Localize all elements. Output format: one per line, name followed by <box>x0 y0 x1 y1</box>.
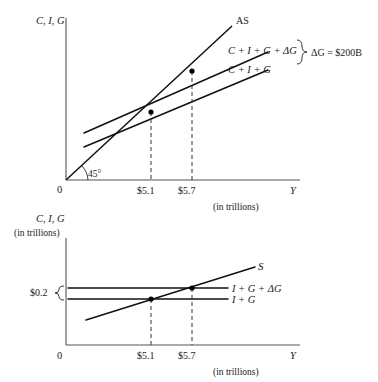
bottom-equilibrium-dot-57 <box>189 285 194 290</box>
investment-shifted-label: I + G + ΔG <box>231 283 282 294</box>
top-x-tick-51: $5.1 <box>137 185 155 196</box>
expenditure-base-label: C + I + G <box>228 64 271 75</box>
gap-label: $0.2 <box>30 287 48 298</box>
top-equilibrium-dot-57 <box>189 68 194 73</box>
expenditure-base-line <box>84 70 268 147</box>
delta-g-annotation: ΔG = $200B <box>311 47 362 58</box>
bottom-x-tick-57: $5.7 <box>178 350 196 361</box>
top-origin-label: 0 <box>57 184 62 195</box>
saving-curve-line <box>86 267 255 320</box>
expenditure-shifted-label: C + I + G + ΔG <box>228 45 297 56</box>
top-y-axis-label: C, I, G <box>36 15 65 26</box>
as-curve-label: AS <box>236 15 249 26</box>
bottom-y-axis-label: C, I, G <box>36 213 65 224</box>
bottom-panel: C, I, G (in trillions) S I + G + ΔG I + … <box>14 213 300 378</box>
investment-base-label: I + G <box>231 294 256 305</box>
delta-g-brace <box>297 40 307 64</box>
top-x-tick-57: $5.7 <box>178 185 196 196</box>
as-curve-line <box>66 26 232 180</box>
top-x-axis-label: Y <box>290 185 297 196</box>
bottom-origin-label: 0 <box>57 350 62 361</box>
bottom-equilibrium-dot-51 <box>148 296 153 301</box>
top-x-axis-units: (in trillions) <box>213 202 259 213</box>
saving-curve-label: S <box>258 260 264 272</box>
top-panel: C, I, G AS C + I + G + ΔG C + I + G ΔG =… <box>36 15 362 213</box>
bottom-x-axis-label: Y <box>290 350 297 361</box>
gap-brace <box>55 286 64 300</box>
bottom-y-axis-units: (in trillions) <box>14 228 60 239</box>
bottom-x-axis-units: (in trillions) <box>213 367 259 378</box>
bottom-x-tick-51: $5.1 <box>137 350 155 361</box>
top-equilibrium-dot-51 <box>148 109 153 114</box>
economics-figure: C, I, G AS C + I + G + ΔG C + I + G ΔG =… <box>0 0 378 382</box>
figure-svg: C, I, G AS C + I + G + ΔG C + I + G ΔG =… <box>0 0 378 382</box>
angle-label: 45° <box>88 169 102 179</box>
